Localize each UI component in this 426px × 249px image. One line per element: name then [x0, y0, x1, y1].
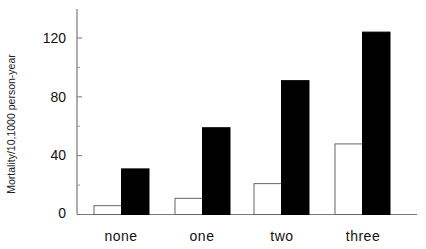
black-bar-one: [203, 128, 231, 215]
x-tick-label-none: none: [91, 228, 151, 244]
x-tick-label-one: one: [172, 228, 232, 244]
white-bar-none: [94, 206, 122, 215]
x-tick-label-three: three: [333, 228, 393, 244]
black-bar-two: [282, 81, 310, 215]
black-bar-none: [122, 169, 150, 215]
y-tick-label-120: 120: [36, 30, 66, 46]
white-bar-one: [175, 198, 203, 214]
white-bar-two: [254, 184, 282, 215]
black-bar-three: [363, 32, 391, 214]
x-tick-label-two: two: [252, 228, 312, 244]
y-tick-label-0: 0: [36, 205, 66, 221]
bar-chart: Mortality/10,1000 person-year 0 40 80 12…: [0, 0, 426, 249]
y-tick-label-40: 40: [36, 147, 66, 163]
y-axis-label: Mortality/10,1000 person-year: [5, 54, 17, 194]
white-bar-three: [335, 144, 363, 215]
y-tick-label-80: 80: [36, 89, 66, 105]
